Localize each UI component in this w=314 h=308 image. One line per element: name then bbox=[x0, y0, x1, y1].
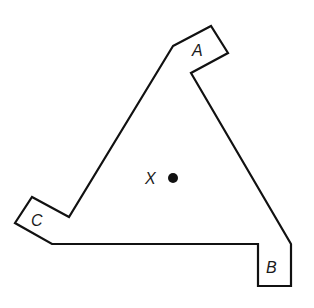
label-b: B bbox=[266, 259, 277, 276]
diagram-canvas: A B C X bbox=[0, 0, 314, 308]
triangular-plate-outline bbox=[15, 26, 291, 286]
label-c: C bbox=[31, 212, 43, 229]
label-x: X bbox=[144, 170, 157, 187]
diagram-svg: A B C X bbox=[0, 0, 314, 308]
point-x-dot bbox=[168, 173, 178, 183]
label-a: A bbox=[191, 42, 203, 59]
